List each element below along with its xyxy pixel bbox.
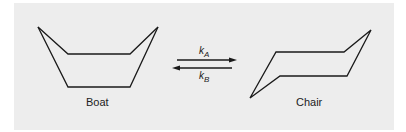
forward-rate-label: kA	[199, 45, 209, 59]
reverse-rate-label: kB	[199, 70, 209, 84]
chair-label: Chair	[296, 96, 322, 108]
boat-conformation	[38, 27, 158, 87]
conformation-drawing	[0, 0, 406, 132]
equilibrium-arrows	[172, 58, 237, 71]
boat-label: Boat	[86, 96, 109, 108]
chair-conformation	[250, 30, 371, 98]
